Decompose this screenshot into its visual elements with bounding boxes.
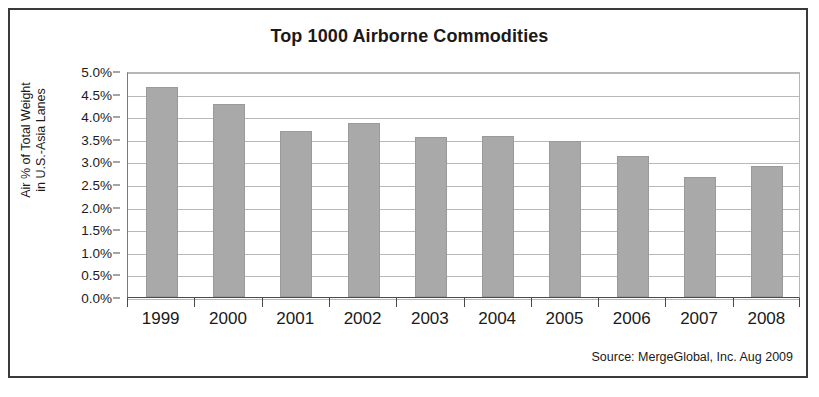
x-axis-tick-marks [127,298,800,308]
y-axis-tick-label: 0.0% [81,291,112,306]
y-axis-tick-mark [113,72,120,73]
bar [617,156,649,297]
bar [280,131,312,297]
y-axis-tick-label: 1.0% [81,245,112,260]
y-axis-tick-label: 1.5% [81,223,112,238]
y-axis-tick-mark [113,185,120,186]
y-axis-tick-label: 5.0% [81,65,112,80]
x-axis-tick-mark [665,298,666,307]
chart-title: Top 1000 Airborne Commodities [0,26,819,47]
y-axis-tick-mark [113,207,120,208]
y-axis-tick-label: 0.5% [81,268,112,283]
x-axis-tick-label: 1999 [142,309,180,329]
y-axis-title: Air % of Total Weight in U.S.-Asia Lanes [19,40,49,240]
x-axis-tick-label: 2007 [680,309,718,329]
y-axis-tick-mark [113,230,120,231]
y-axis-tick-mark [113,162,120,163]
bar [146,87,178,297]
bar [482,136,514,297]
bar [684,177,716,297]
y-axis-tick-mark [113,94,120,95]
x-axis-tick-mark [799,298,800,307]
y-axis-tick-mark [113,252,120,253]
source-note: Source: MergeGlobal, Inc. Aug 2009 [591,350,793,364]
bar [751,166,783,297]
x-axis-tick-mark [127,298,128,307]
bar [415,137,447,297]
x-axis-tick-label: 2003 [411,309,449,329]
x-axis-tick-mark [329,298,330,307]
x-axis-tick-mark [464,298,465,307]
y-axis-tick-label: 3.5% [81,132,112,147]
y-axis-tick-label: 4.0% [81,110,112,125]
y-axis-tick-mark [113,298,120,299]
x-axis-tick-mark [194,298,195,307]
y-axis-tick-label: 2.0% [81,200,112,215]
x-axis-tick-mark [598,298,599,307]
y-axis-tick-labels: 5.0%4.5%4.0%3.5%3.0%2.5%2.0%1.5%1.0%0.5%… [52,72,120,298]
x-axis-tick-labels: 1999200020012002200320042005200620072008 [127,309,800,339]
x-axis-tick-label: 2008 [747,309,785,329]
x-axis-tick-mark [733,298,734,307]
bar [348,123,380,297]
x-axis-tick-label: 2002 [344,309,382,329]
x-axis-tick-label: 2005 [546,309,584,329]
x-axis-tick-label: 2004 [478,309,516,329]
bar-series [128,73,799,297]
y-axis-tick-mark [113,139,120,140]
x-axis-tick-mark [396,298,397,307]
bar [213,104,245,297]
x-axis-tick-label: 2006 [613,309,651,329]
y-axis-tick-label: 3.0% [81,155,112,170]
x-axis-tick-mark [531,298,532,307]
y-axis-tick-mark [113,117,120,118]
bar [549,141,581,297]
y-axis-tick-label: 2.5% [81,178,112,193]
x-axis-tick-mark [262,298,263,307]
y-axis-tick-mark [113,275,120,276]
chart-figure: Top 1000 Airborne Commodities Air % of T… [0,0,819,397]
plot-area [127,72,800,298]
x-axis-tick-label: 2001 [276,309,314,329]
x-axis-tick-label: 2000 [209,309,247,329]
y-axis-tick-label: 4.5% [81,87,112,102]
